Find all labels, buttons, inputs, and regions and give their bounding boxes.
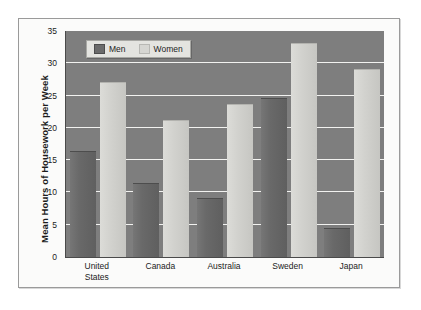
- x-axis-tick-label: Canada: [129, 261, 193, 272]
- y-axis-tick-label: 10: [35, 188, 57, 196]
- bar-group: [130, 31, 194, 257]
- y-axis-tick-label: 15: [35, 156, 57, 164]
- legend-swatch-women-icon: [139, 44, 150, 54]
- x-axis-tick-label: Japan: [319, 261, 383, 272]
- y-axis-tick-label: 25: [35, 92, 57, 100]
- y-axis-tick-label: 30: [35, 59, 57, 67]
- legend-swatch-men-icon: [94, 44, 105, 54]
- y-axis-tick-label: 0: [35, 253, 57, 261]
- bar-women: [100, 82, 126, 257]
- plot-area: Men Women: [65, 31, 384, 258]
- legend-label-men: Men: [109, 45, 126, 54]
- bar-women: [354, 69, 380, 257]
- bar-group: [257, 31, 321, 257]
- y-axis-tick-label: 5: [35, 221, 57, 229]
- y-axis-tick-label: 35: [35, 27, 57, 35]
- bar-men: [133, 183, 159, 257]
- legend-entry-men: Men: [94, 44, 126, 54]
- bar-women: [227, 104, 253, 257]
- bar-group: [66, 31, 130, 257]
- bar-men: [197, 198, 223, 257]
- bars-layer: [66, 31, 384, 257]
- y-axis-tick-label: 20: [35, 124, 57, 132]
- x-axis-tick-label: Australia: [192, 261, 256, 272]
- x-axis-tick-label: UnitedStates: [65, 261, 129, 282]
- chart-legend: Men Women: [86, 40, 191, 58]
- bar-women: [291, 43, 317, 257]
- x-axis-tick-labels: UnitedStatesCanadaAustraliaSwedenJapan: [65, 261, 383, 287]
- bar-men: [261, 98, 287, 257]
- x-axis-tick-label: Sweden: [256, 261, 320, 272]
- chart-figure-frame: Mean Hours of Housework per Week 0510152…: [18, 18, 400, 288]
- bar-men: [324, 228, 350, 257]
- bar-group: [320, 31, 384, 257]
- bar-men: [70, 151, 96, 257]
- bar-women: [163, 120, 189, 257]
- legend-label-women: Women: [154, 45, 183, 54]
- bar-group: [193, 31, 257, 257]
- legend-entry-women: Women: [139, 44, 183, 54]
